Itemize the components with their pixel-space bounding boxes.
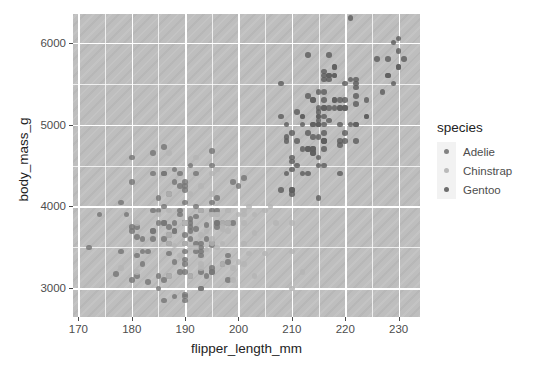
scatter-plot-figure: flipper_length_mm body_mass_g species Ad…	[0, 0, 538, 371]
data-point	[289, 286, 295, 292]
data-point	[284, 122, 290, 128]
tick-label-x: 190	[176, 323, 195, 335]
data-point	[321, 73, 327, 79]
data-point	[129, 179, 135, 185]
data-point	[193, 214, 199, 220]
data-point	[241, 241, 247, 247]
data-point	[241, 220, 247, 226]
data-point	[230, 179, 236, 185]
data-point	[198, 232, 204, 238]
data-point	[321, 97, 327, 103]
data-point	[321, 114, 327, 120]
data-point	[294, 138, 300, 144]
legend-dot-icon	[444, 187, 450, 193]
data-point	[118, 265, 124, 271]
tick-label-x: 170	[69, 323, 88, 335]
data-point	[300, 114, 306, 120]
data-point	[166, 208, 172, 214]
data-point	[182, 269, 188, 275]
data-point	[353, 85, 359, 91]
legend-key	[437, 161, 456, 180]
data-point	[310, 146, 316, 152]
data-point	[326, 52, 332, 58]
data-point	[182, 220, 188, 226]
data-point	[342, 138, 348, 144]
tick-label-x: 220	[336, 323, 355, 335]
legend-entry-chinstrap[interactable]: Chinstrap	[437, 161, 533, 180]
data-point	[193, 171, 199, 177]
tick-label-y: 4000	[40, 200, 66, 212]
data-point	[134, 220, 140, 226]
legend-dot-icon	[444, 149, 450, 155]
plot-panel	[73, 14, 420, 317]
data-point	[188, 236, 194, 242]
data-point	[220, 241, 226, 247]
data-point	[177, 269, 183, 275]
tick-mark-y	[69, 206, 73, 207]
data-point	[204, 247, 210, 253]
data-point	[177, 212, 183, 218]
data-point	[342, 130, 348, 136]
data-point	[86, 245, 92, 251]
data-point	[230, 277, 236, 283]
data-point	[220, 261, 226, 267]
data-point	[252, 273, 258, 279]
data-point	[401, 56, 407, 62]
data-point	[310, 97, 316, 103]
data-point	[246, 204, 252, 210]
data-point	[316, 155, 322, 161]
data-point	[230, 265, 236, 271]
data-point	[342, 81, 348, 87]
data-point	[177, 253, 183, 259]
data-point	[289, 167, 295, 173]
tick-mark-x	[345, 317, 346, 321]
data-point	[129, 277, 135, 283]
data-point	[364, 97, 370, 103]
data-point	[305, 171, 311, 177]
data-point	[182, 200, 188, 206]
data-point	[353, 93, 359, 99]
data-point	[172, 243, 178, 249]
data-point	[289, 187, 295, 193]
legend-dot-icon	[444, 168, 450, 174]
legend-entry-gentoo[interactable]: Gentoo	[437, 180, 533, 199]
tick-label-y: 5000	[40, 119, 66, 131]
data-point	[166, 150, 172, 156]
data-point	[353, 138, 359, 144]
data-point	[300, 122, 306, 128]
data-point	[166, 232, 172, 238]
data-point	[188, 163, 194, 169]
data-point	[97, 212, 103, 218]
data-point	[321, 138, 327, 144]
tick-label-x: 180	[122, 323, 141, 335]
data-point	[198, 208, 204, 214]
data-point	[278, 114, 284, 120]
tick-label-y: 6000	[40, 37, 66, 49]
data-point	[321, 89, 327, 95]
data-point	[166, 251, 172, 257]
data-point	[145, 279, 151, 285]
data-point	[289, 155, 295, 161]
data-point	[342, 105, 348, 111]
data-point	[214, 195, 220, 201]
tick-label-x: 230	[389, 323, 408, 335]
data-point	[182, 249, 188, 255]
data-point	[246, 251, 252, 257]
data-point	[289, 130, 295, 136]
legend-label: Adelie	[463, 146, 495, 158]
data-point	[385, 73, 391, 79]
data-point	[150, 236, 156, 242]
data-point	[172, 228, 178, 234]
legend-title: species	[437, 120, 533, 135]
tick-label-x: 210	[282, 323, 301, 335]
data-point	[161, 171, 167, 177]
data-point	[156, 286, 162, 292]
data-point	[177, 171, 183, 177]
data-point	[214, 212, 220, 218]
legend-entry-adelie[interactable]: Adelie	[437, 142, 533, 161]
data-point	[161, 144, 167, 150]
data-point	[364, 114, 370, 120]
tick-mark-x	[399, 317, 400, 321]
data-point	[204, 273, 210, 279]
data-point	[113, 271, 119, 277]
